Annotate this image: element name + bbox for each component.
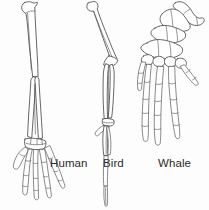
specimen-label-layer: Human Bird Whale xyxy=(0,0,209,210)
specimen-label-whale: Whale xyxy=(158,158,191,170)
specimen-label-bird: Bird xyxy=(103,158,124,170)
comparative-anatomy-figure: Human Bird Whale xyxy=(0,0,209,210)
specimen-label-human: Human xyxy=(50,158,88,170)
